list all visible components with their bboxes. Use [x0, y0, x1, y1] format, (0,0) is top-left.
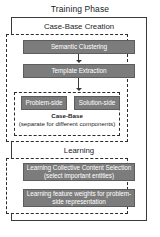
step-learning-collective-content-selection: Learning Collective Content Selection (s… — [23, 163, 135, 181]
step-template-extraction: Template Extraction — [23, 64, 135, 78]
case-base-caption-line2: (separate for different components) — [14, 120, 120, 128]
section-title-case-base-creation: Case-Base Creation — [12, 21, 146, 32]
diagram-title: Training Phase — [0, 4, 160, 14]
case-base-caption-line1: Case-Base — [14, 112, 120, 120]
case-base-problem-side: Problem-side — [21, 96, 67, 110]
case-base-caption: Case-Base (separate for different compon… — [14, 112, 120, 128]
step-learning-feature-weights: Learning feature weights for problem-sid… — [23, 189, 135, 207]
step-semantic-clustering: Semantic Clustering — [23, 40, 135, 54]
arrow-semantic-to-template-head — [76, 60, 82, 63]
arrow-template-to-case-base-head — [76, 88, 82, 91]
training-phase-diagram: Training Phase Case-Base Creation Semant… — [0, 0, 160, 237]
case-base-solution-side: Solution-side — [74, 96, 120, 110]
section-title-learning: Learning — [11, 146, 147, 155]
